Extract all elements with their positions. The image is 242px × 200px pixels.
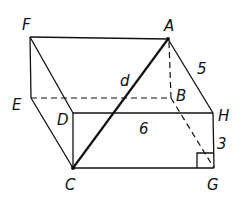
- label-D: D: [57, 111, 69, 129]
- edge-HG: [213, 113, 214, 168]
- hidden-edge-BG: [171, 98, 214, 168]
- label-B: B: [176, 87, 186, 105]
- label-F: F: [22, 16, 31, 34]
- edge-FD: [30, 37, 73, 113]
- label-E: E: [12, 96, 22, 114]
- hidden-edge-AB: [169, 42, 171, 98]
- right-angle-marker: [197, 153, 214, 168]
- measure-AC: d: [120, 72, 130, 90]
- label-C: C: [65, 176, 76, 194]
- measure-AH: 5: [197, 60, 207, 78]
- edge-FA: [30, 37, 168, 39]
- edge-EC: [31, 98, 73, 168]
- label-A: A: [163, 17, 174, 35]
- vertex-dot-A: [166, 37, 170, 41]
- measure-DH: 6: [139, 120, 149, 138]
- label-G: G: [207, 176, 219, 194]
- label-H: H: [218, 107, 229, 125]
- diagonal-AC: [73, 39, 168, 168]
- vertex-dot-C: [71, 166, 75, 170]
- rectangular-box-diagram: F A E B D H C G 5 6 3 d: [0, 0, 242, 200]
- edge-FE: [30, 37, 31, 98]
- measure-HG: 3: [217, 135, 227, 153]
